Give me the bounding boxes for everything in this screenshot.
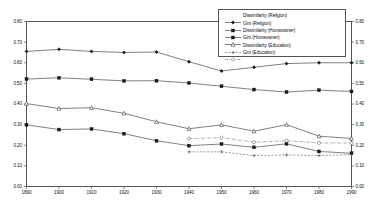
y-axis-tick-label-left: 0.20 bbox=[0, 143, 22, 148]
y-axis-tick-label-left: 0.10 bbox=[0, 163, 22, 168]
legend-item-3[interactable]: Gini (Homeowner) bbox=[223, 34, 342, 41]
data-point-marker bbox=[188, 144, 191, 147]
y-axis-tick-label-right: 0.00 bbox=[356, 184, 365, 189]
y-axis-tick-label-right: 0.40 bbox=[356, 101, 365, 106]
x-axis-tick-label: 1990 bbox=[337, 190, 367, 195]
data-point-marker bbox=[25, 102, 29, 106]
x-axis-tick-label: 1940 bbox=[174, 190, 204, 195]
data-point-marker bbox=[90, 78, 93, 81]
data-point-marker bbox=[318, 89, 321, 92]
legend-item-0[interactable]: Dissimilarity (Religion) bbox=[223, 12, 342, 19]
chart-legend: Dissimilarity (Religion) Gini (Religion)… bbox=[218, 9, 346, 57]
data-point-marker bbox=[317, 61, 320, 64]
y-axis-tick-label-right: 0.50 bbox=[356, 81, 365, 86]
series-3 bbox=[25, 102, 354, 141]
legend-item-4[interactable]: Dissimilarity (Education) bbox=[223, 42, 342, 49]
x-axis-tick-label: 1920 bbox=[109, 190, 139, 195]
series-line bbox=[27, 78, 352, 92]
legend-label: Dissimilarity (Religion) bbox=[243, 12, 287, 19]
x-axis-tick-label: 1970 bbox=[272, 190, 302, 195]
x-axis-tick-label: 1900 bbox=[44, 190, 74, 195]
data-point-marker bbox=[155, 79, 158, 82]
legend-marker-plus-icon bbox=[223, 42, 243, 49]
y-axis-tick-label-left: 0.30 bbox=[0, 122, 22, 127]
legend-marker-open-circle-icon bbox=[223, 49, 243, 56]
legend-label: Gini (Religion) bbox=[243, 20, 271, 27]
data-point-marker bbox=[187, 137, 190, 140]
series-4 bbox=[187, 150, 353, 157]
chart-container: Dissimilarity (Religion) Gini (Religion)… bbox=[0, 0, 383, 210]
x-axis-tick-label: 1960 bbox=[239, 190, 269, 195]
data-point-marker bbox=[285, 62, 288, 65]
y-axis-tick-label-right: 0.80 bbox=[356, 19, 365, 24]
y-axis-tick-label-left: 0.60 bbox=[0, 60, 22, 65]
data-point-marker bbox=[25, 78, 28, 81]
y-axis-tick-label-left: 0.50 bbox=[0, 81, 22, 86]
x-axis-tick-label: 1950 bbox=[207, 190, 237, 195]
data-point-marker bbox=[318, 150, 321, 153]
legend-label: Gini (Homeowner) bbox=[243, 34, 279, 41]
data-point-marker bbox=[350, 61, 353, 64]
data-point-marker bbox=[220, 85, 223, 88]
data-point-marker bbox=[25, 123, 28, 126]
data-point-marker bbox=[57, 48, 60, 51]
data-point-marker bbox=[220, 143, 223, 146]
data-point-marker bbox=[253, 146, 256, 149]
data-point-marker bbox=[285, 91, 288, 94]
data-point-marker bbox=[188, 81, 191, 84]
data-point-marker bbox=[317, 141, 320, 144]
data-point-marker bbox=[220, 69, 223, 72]
series-line bbox=[27, 104, 352, 139]
data-point-marker bbox=[25, 50, 28, 53]
legend-marker-filled-square-icon bbox=[223, 20, 243, 27]
data-point-marker bbox=[123, 132, 126, 135]
data-point-marker bbox=[285, 139, 288, 142]
data-point-marker bbox=[220, 136, 223, 139]
data-point-marker bbox=[90, 50, 93, 53]
data-point-marker bbox=[155, 50, 158, 53]
legend-label: Gini (Education) bbox=[243, 49, 275, 56]
y-axis-tick-label-right: 0.30 bbox=[356, 122, 365, 127]
x-axis-tick-label: 1980 bbox=[304, 190, 334, 195]
legend-marker-filled-diamond-icon bbox=[223, 12, 243, 19]
series-5 bbox=[187, 136, 353, 144]
y-axis-tick-label-left: 0.40 bbox=[0, 101, 22, 106]
y-axis-tick-label-left: 0.70 bbox=[0, 40, 22, 45]
data-point-marker bbox=[285, 142, 288, 145]
data-point-marker bbox=[187, 60, 190, 63]
x-axis-tick-label: 1910 bbox=[77, 190, 107, 195]
data-point-marker bbox=[58, 76, 61, 79]
y-axis-tick-label-right: 0.10 bbox=[356, 163, 365, 168]
y-axis-tick-label-right: 0.20 bbox=[356, 143, 365, 148]
legend-label: Dissimilarity (Homeowner) bbox=[243, 27, 295, 34]
data-point-marker bbox=[252, 66, 255, 69]
series-line bbox=[189, 138, 352, 143]
series-line bbox=[189, 152, 352, 156]
data-point-marker bbox=[231, 58, 234, 61]
data-point-marker bbox=[350, 141, 353, 144]
data-point-marker bbox=[58, 128, 61, 131]
y-axis-tick-label-left: 0.80 bbox=[0, 19, 22, 24]
legend-item-2[interactable]: Dissimilarity (Homeowner) bbox=[223, 27, 342, 34]
legend-marker-open-triangle-icon bbox=[223, 34, 243, 41]
data-point-marker bbox=[253, 88, 256, 91]
data-point-marker bbox=[252, 141, 255, 144]
data-point-marker bbox=[90, 127, 93, 130]
data-point-marker bbox=[350, 90, 353, 93]
legend-marker-filled-square-icon bbox=[223, 27, 243, 34]
legend-item-1[interactable]: Gini (Religion) bbox=[223, 19, 342, 26]
y-axis-tick-label-right: 0.70 bbox=[356, 40, 365, 45]
legend-label: Dissimilarity (Education) bbox=[243, 42, 291, 49]
data-point-marker bbox=[123, 79, 126, 82]
data-point-marker bbox=[122, 51, 125, 54]
x-axis-tick-label: 1890 bbox=[12, 190, 42, 195]
data-point-marker bbox=[285, 123, 289, 127]
y-axis-tick-label-right: 0.60 bbox=[356, 60, 365, 65]
x-axis-tick-label: 1930 bbox=[142, 190, 172, 195]
y-axis-tick-label-left: 0.00 bbox=[0, 184, 22, 189]
series-1 bbox=[25, 76, 353, 93]
legend-item-5[interactable]: Gini (Education) bbox=[223, 49, 342, 56]
data-point-marker bbox=[155, 139, 158, 142]
